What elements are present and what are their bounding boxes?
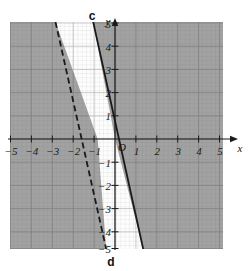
x-tick-label: 5 xyxy=(217,145,223,157)
y-tick-label: 4 xyxy=(106,41,112,53)
y-tick-label: 2 xyxy=(106,87,112,99)
x-tick-label: −1 xyxy=(88,145,101,157)
x-tick-label: −4 xyxy=(25,145,38,157)
y-tick-label: 3 xyxy=(105,64,112,76)
y-tick-label: −1 xyxy=(98,157,111,169)
plot-background xyxy=(10,22,223,249)
y-tick-label: −3 xyxy=(98,203,111,215)
x-tick-label: 4 xyxy=(196,145,202,157)
y-tick-label: −4 xyxy=(98,226,111,238)
line-d-label: d xyxy=(107,255,114,269)
graph-container: −5 −4 −3 −2 −1 1 2 3 4 5 5 4 3 2 1 −1 −2… xyxy=(0,0,251,271)
x-tick-label: −2 xyxy=(67,145,80,157)
x-tick-label: 3 xyxy=(174,145,181,157)
y-tick-label: 1 xyxy=(106,110,112,122)
coordinate-graph: −5 −4 −3 −2 −1 1 2 3 4 5 5 4 3 2 1 −1 −2… xyxy=(0,0,251,271)
origin-label: O xyxy=(118,141,126,153)
line-c-label: c xyxy=(89,9,96,23)
y-tick-label: −5 xyxy=(98,243,111,255)
y-tick-label: −2 xyxy=(98,180,111,192)
x-tick-label: −3 xyxy=(46,145,59,157)
x-axis-label: x xyxy=(237,142,243,154)
x-tick-label: −5 xyxy=(5,145,18,157)
x-tick-label: 2 xyxy=(155,145,161,157)
y-axis-label: y xyxy=(105,15,111,27)
x-tick-label: 1 xyxy=(134,145,140,157)
